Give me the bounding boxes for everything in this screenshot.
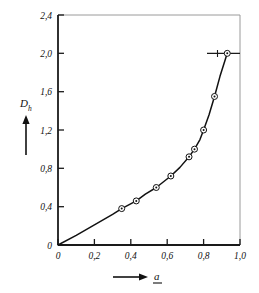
x-tick-label-3: 0,6 [161, 251, 173, 261]
figure-container: 0 0,4 0,8 1,2 1,6 2,0 2,4 0 0,2 0,4 0,6 … [0, 0, 259, 293]
x-tick-label-5: 1,0 [234, 251, 246, 261]
y-axis-title: D [19, 97, 28, 109]
x-tick-label-2: 0,4 [125, 251, 137, 261]
y-tick-label-2: 0,8 [40, 164, 52, 174]
y-axis-arrow-head-icon [22, 115, 29, 124]
x-axis-arrow-head-icon [139, 273, 148, 280]
y-axis-ticks [58, 15, 64, 245]
plot-frame [58, 15, 240, 245]
annotation-limit-line [207, 50, 240, 57]
y-tick-label-4: 1,6 [40, 87, 52, 97]
data-point-center-dot [194, 148, 196, 150]
line-chart: 0 0,4 0,8 1,2 1,6 2,0 2,4 0 0,2 0,4 0,6 … [0, 0, 259, 293]
y-tick-label-5: 2,0 [40, 49, 52, 59]
data-point-center-dot [170, 175, 172, 177]
x-tick-label-0: 0 [56, 251, 61, 261]
y-axis-title-subscript: h [28, 104, 32, 113]
data-point-markers [119, 50, 231, 211]
data-point-center-dot [203, 129, 205, 131]
y-tick-label-1: 0,4 [40, 202, 52, 212]
y-tick-label-0: 0 [47, 241, 52, 251]
data-curve [58, 53, 227, 245]
x-axis-title: a [154, 270, 160, 282]
y-tick-label-6: 2,4 [40, 11, 52, 21]
data-point-center-dot [214, 95, 216, 97]
data-point-center-dot [121, 208, 123, 210]
y-tick-label-3: 1,2 [40, 126, 52, 136]
y-axis-title-group: D h [19, 97, 32, 155]
data-point-center-dot [188, 156, 190, 158]
data-point-center-dot [155, 187, 157, 189]
x-tick-label-4: 0,8 [198, 251, 210, 261]
y-tick-labels: 0 0,4 0,8 1,2 1,6 2,0 2,4 [40, 11, 52, 251]
x-axis-title-group: a [113, 270, 162, 283]
x-tick-labels: 0 0,2 0,4 0,6 0,8 1,0 [56, 251, 247, 261]
x-tick-label-1: 0,2 [88, 251, 100, 261]
data-point-center-dot [135, 200, 137, 202]
data-point-center-dot [226, 52, 228, 54]
